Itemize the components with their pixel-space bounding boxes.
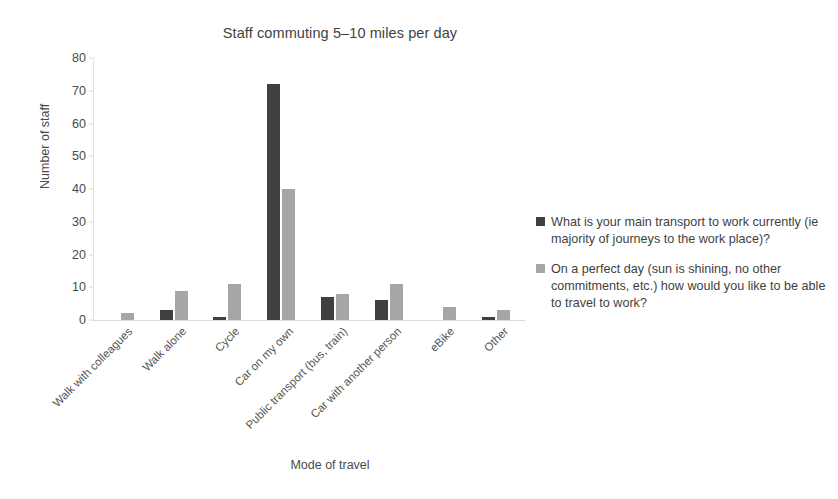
legend-swatch-icon <box>536 217 545 226</box>
x-tick-label-text: Walk alone <box>140 325 188 373</box>
bar[interactable] <box>482 317 495 320</box>
bar[interactable] <box>213 317 226 320</box>
x-tick-label-text: Car with another person <box>308 325 403 420</box>
bar[interactable] <box>282 189 295 320</box>
legend-item[interactable]: On a perfect day (sun is shining, no oth… <box>536 261 832 312</box>
y-tick-mark <box>89 254 93 255</box>
x-tick-label-text: Cycle <box>213 325 242 354</box>
bar[interactable] <box>336 294 349 320</box>
plot-area: 01020304050607080 <box>93 58 523 320</box>
y-axis-title: Number of staff <box>38 104 52 189</box>
y-tick-mark <box>89 320 93 321</box>
legend-label: On a perfect day (sun is shining, no oth… <box>551 261 832 312</box>
y-tick-label: 0 <box>79 313 86 327</box>
bar-group <box>106 58 134 320</box>
chart-title: Staff commuting 5–10 miles per day <box>130 25 550 41</box>
chart-legend: What is your main transport to work curr… <box>536 214 832 325</box>
x-tick-label-text: Walk with colleagues <box>50 325 134 409</box>
bar-group <box>482 58 510 320</box>
y-tick-label: 10 <box>72 280 86 294</box>
bar[interactable] <box>160 310 173 320</box>
bar-group <box>213 58 241 320</box>
chart-figure: Staff commuting 5–10 miles per day Numbe… <box>0 0 838 499</box>
y-tick-label: 60 <box>72 117 86 131</box>
x-tick-label-text: Other <box>482 325 511 354</box>
y-tick-label: 30 <box>72 215 86 229</box>
legend-item[interactable]: What is your main transport to work curr… <box>536 214 832 248</box>
x-tick-label-text: eBike <box>428 325 457 354</box>
y-tick-label: 80 <box>72 51 86 65</box>
y-tick-label: 20 <box>72 248 86 262</box>
y-tick-mark <box>89 221 93 222</box>
y-tick-mark <box>89 58 93 59</box>
y-tick-label: 40 <box>72 182 86 196</box>
y-tick-mark <box>89 90 93 91</box>
y-tick-mark <box>89 189 93 190</box>
y-tick-mark <box>89 123 93 124</box>
bar-group <box>267 58 295 320</box>
bar[interactable] <box>175 291 188 320</box>
y-tick-label: 50 <box>72 149 86 163</box>
legend-swatch-icon <box>536 264 545 273</box>
x-axis-title: Mode of travel <box>215 458 445 472</box>
bar[interactable] <box>228 284 241 320</box>
legend-label: What is your main transport to work curr… <box>551 214 832 248</box>
bar[interactable] <box>267 84 280 320</box>
y-tick-label: 70 <box>72 84 86 98</box>
y-tick-mark <box>89 287 93 288</box>
y-tick-mark <box>89 156 93 157</box>
x-tick-label-text: Public transport (bus, train) <box>243 325 349 431</box>
